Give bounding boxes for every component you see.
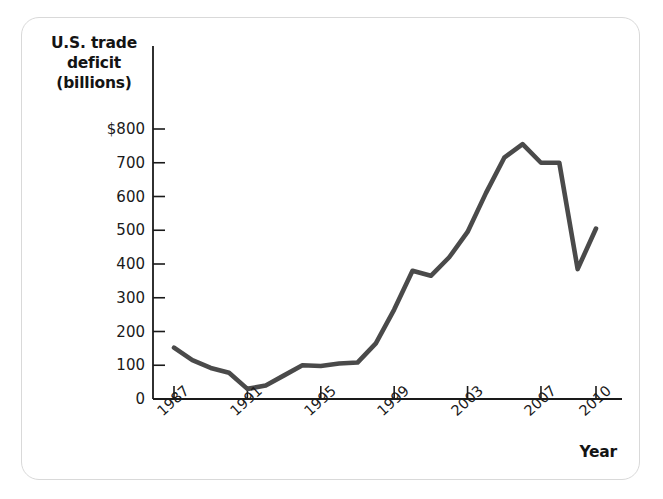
- axis-lines: [153, 46, 622, 399]
- chart-card: U.S. trade deficit (billions) Year $8007…: [21, 17, 640, 480]
- y-axis-tick-label: 600: [71, 188, 145, 206]
- y-axis-tick-label: 700: [71, 154, 145, 172]
- y-axis-tick-label: 200: [71, 323, 145, 341]
- y-axis-ticks: [153, 129, 165, 399]
- y-axis-tick-label: 300: [71, 289, 145, 307]
- y-axis-tick-label: 100: [71, 356, 145, 374]
- trade-deficit-line-chart: [22, 18, 641, 481]
- chart-plot-area: U.S. trade deficit (billions) Year $8007…: [22, 18, 641, 481]
- y-axis-tick-label: 500: [71, 221, 145, 239]
- series-line-u.s.-trade-deficit: [174, 144, 596, 389]
- y-axis-tick-label: 400: [71, 255, 145, 273]
- y-axis-tick-label: 0: [71, 390, 145, 408]
- y-axis-tick-label: $800: [71, 120, 145, 138]
- data-series-line: [174, 144, 596, 389]
